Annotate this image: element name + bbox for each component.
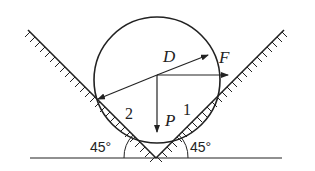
label-force-f: F [219,49,229,66]
label-contact-1: 1 [183,102,191,118]
label-diameter-d: D [163,48,175,65]
diagram-canvas: D F P 1 2 45° 45° [0,0,315,171]
label-contact-2: 2 [125,106,133,122]
label-weight-p: P [165,112,175,129]
label-angle-left: 45° [90,140,111,154]
diagram-svg [0,0,315,171]
label-angle-right: 45° [190,140,211,154]
diameter-arrow-left [98,75,157,99]
